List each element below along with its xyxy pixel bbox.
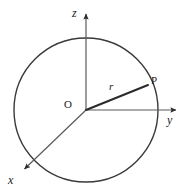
x-axis-label: x — [8, 174, 13, 186]
point-p-label: P — [151, 75, 157, 86]
x-axis-line — [25, 110, 87, 169]
y-axis-label: y — [167, 114, 172, 126]
radius-vector-line — [86, 85, 148, 110]
radius-label: r — [109, 81, 113, 92]
diagram-canvas — [0, 0, 184, 191]
z-axis-label: z — [72, 7, 77, 19]
geometry-diagram: z y x O P r — [0, 0, 184, 191]
origin-label: O — [64, 99, 72, 110]
